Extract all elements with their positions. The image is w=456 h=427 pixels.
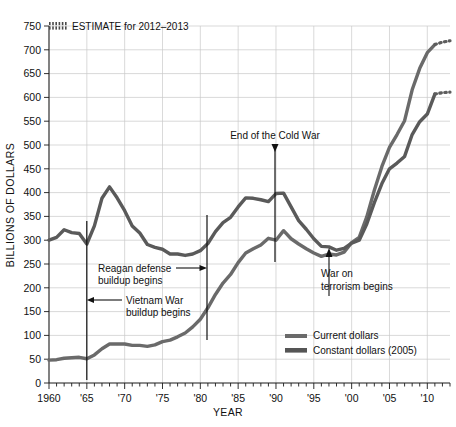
x-tick-label: '80 [193, 392, 207, 404]
x-tick-label: '00 [345, 392, 359, 404]
x-tick-label: '95 [307, 392, 321, 404]
y-tick-label: 50 [29, 353, 41, 365]
x-tick-label: '05 [383, 392, 397, 404]
series-line-constant-dollars [49, 94, 435, 255]
annotation-terror-line2: terrorism begins [321, 281, 393, 292]
y-tick-label: 750 [23, 20, 41, 32]
x-axis-title: YEAR [213, 406, 243, 418]
x-tick-label: 1960 [37, 392, 61, 404]
series-estimate-constant-dollars [435, 92, 450, 94]
x-tick-label: '75 [156, 392, 170, 404]
annotation-coldwar-arrow [272, 144, 279, 152]
x-tick-label: '65 [80, 392, 94, 404]
legend-swatch-constant [285, 348, 307, 353]
y-tick-label: 350 [23, 210, 41, 222]
y-tick-label: 650 [23, 67, 41, 79]
annotation-terror-line1: War on [321, 268, 353, 279]
annotation-reagan-arrow [176, 265, 207, 271]
y-tick-label: 600 [23, 91, 41, 103]
y-axis-ticks-group: 0501001502002503003504004505005506006507… [23, 20, 49, 389]
annotation-coldwar-line1: End of the Cold War [230, 130, 320, 141]
annotation-vietnam-arrow [87, 297, 122, 303]
defense-spending-chart: 0501001502002503003504004505005506006507… [0, 0, 456, 427]
y-tick-label: 500 [23, 139, 41, 151]
y-tick-label: 250 [23, 258, 41, 270]
x-tick-label: '90 [269, 392, 283, 404]
y-tick-label: 100 [23, 329, 41, 341]
series-group [49, 41, 450, 360]
x-tick-label: '10 [420, 392, 434, 404]
annotation-vietnam-line1: Vietnam War [126, 295, 184, 306]
y-tick-label: 200 [23, 282, 41, 294]
estimate-legend: ESTIMATE for 2012–2013 [49, 21, 189, 32]
series-legend: Current dollars Constant dollars (2005) [285, 330, 417, 356]
x-axis-ticks-group: 1960'65'70'75'80'85'90'95'00'05'10 [37, 383, 450, 404]
estimate-legend-label: ESTIMATE for 2012–2013 [72, 21, 189, 32]
y-tick-label: 550 [23, 115, 41, 127]
legend-label-constant: Constant dollars (2005) [313, 345, 417, 356]
y-tick-label: 400 [23, 186, 41, 198]
y-axis-title: BILLIONS OF DOLLARS [4, 143, 16, 267]
y-tick-label: 300 [23, 234, 41, 246]
y-tick-label: 700 [23, 44, 41, 56]
y-tick-label: 150 [23, 305, 41, 317]
y-tick-label: 450 [23, 163, 41, 175]
gridlines-group [49, 26, 450, 383]
legend-swatch-current [285, 334, 307, 338]
series-estimate-current-dollars [435, 41, 450, 45]
annotation-reagan-line2: buildup begins [98, 275, 163, 286]
x-tick-label: '85 [231, 392, 245, 404]
annotation-reagan-line1: Reagan defense [98, 263, 172, 274]
y-tick-label: 0 [35, 377, 41, 389]
legend-label-current: Current dollars [313, 330, 379, 341]
annotation-vietnam-line2: buildup begins [126, 307, 191, 318]
x-tick-label: '70 [118, 392, 132, 404]
chart-svg: 0501001502002503003504004505005506006507… [0, 0, 456, 427]
